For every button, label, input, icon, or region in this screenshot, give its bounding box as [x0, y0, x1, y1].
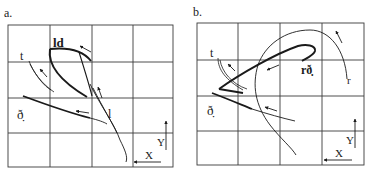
trace-dh — [23, 96, 107, 124]
trace-r — [255, 30, 347, 155]
arrow-icon — [265, 107, 277, 111]
panel-b: b. — [193, 5, 364, 165]
panel-a: a. — [4, 6, 173, 167]
arrow-icon — [98, 87, 102, 98]
arrow-icon — [76, 111, 89, 113]
trace-dh-b — [212, 93, 295, 121]
panel-b-grid — [197, 23, 364, 165]
y-axis-label: Y — [157, 136, 165, 148]
trace-label-r: r — [347, 74, 351, 86]
trace-label-t-b: t — [210, 46, 214, 60]
trace-label-t: t — [20, 49, 24, 63]
arrow-icon — [267, 65, 279, 70]
trace-label-l: l — [108, 107, 112, 121]
trace-label-ld: ld — [53, 35, 65, 50]
panel-a-label: a. — [4, 6, 12, 20]
arrow-icon — [336, 31, 342, 43]
trace-label-dh: ð̣ — [17, 107, 25, 122]
x-axis-label-b: X — [335, 147, 343, 159]
direction-arrows-b — [228, 31, 342, 111]
axis-indicators-b: Y X — [324, 119, 355, 160]
trace-l — [90, 84, 127, 162]
x-axis-label: X — [145, 149, 153, 161]
y-axis-label-b: Y — [346, 134, 354, 146]
trace-label-rdh: rð̣ — [301, 63, 313, 77]
panel-a-grid — [8, 25, 173, 167]
axis-indicators-a: Y X — [134, 121, 166, 162]
arrow-icon — [228, 64, 235, 71]
arrow-icon — [40, 69, 47, 77]
articulation-trajectory-diagram: a. — [0, 0, 378, 179]
panel-b-label: b. — [193, 5, 202, 19]
arrow-icon — [80, 46, 91, 52]
trace-label-dh-b: ð̣ — [207, 103, 215, 118]
trace-ld — [50, 49, 92, 97]
